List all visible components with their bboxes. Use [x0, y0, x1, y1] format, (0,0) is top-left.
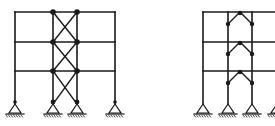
ground-hatch [44, 115, 46, 117]
ground-hatch [204, 115, 206, 117]
connection-node [51, 100, 56, 105]
ground-hatch [253, 115, 255, 117]
ground-hatch [119, 115, 121, 117]
frames-group [6, 9, 275, 117]
ground-hatch [111, 115, 113, 117]
ground-hatch [243, 115, 245, 117]
ground-hatch [19, 115, 21, 117]
ground-hatch [57, 115, 59, 117]
connection-node [250, 52, 254, 56]
ground-hatch [9, 115, 11, 117]
connection-node [75, 100, 80, 105]
ground-hatch [234, 115, 236, 117]
ground-hatch [52, 115, 54, 117]
ground-hatch [47, 115, 49, 117]
ground-hatch [49, 115, 51, 117]
pin-support-icon [71, 104, 83, 113]
ground-hatch [121, 115, 123, 117]
ground-hatch [199, 115, 201, 117]
ground-hatch [114, 115, 116, 117]
ground-hatch [202, 115, 204, 117]
connection-node [50, 68, 56, 74]
ground-hatch [83, 115, 85, 117]
pin-support-icon [197, 104, 209, 113]
ground-hatch [76, 115, 78, 117]
connection-node [226, 52, 230, 56]
ground-hatch [21, 115, 23, 117]
ground-hatch [227, 115, 229, 117]
connection-node [226, 22, 230, 26]
connection-node [50, 39, 56, 45]
ground-hatch [248, 115, 250, 117]
ground-hatch [258, 115, 260, 117]
connection-node [238, 41, 243, 46]
structural-diagram [0, 0, 275, 126]
ground-hatch [224, 115, 226, 117]
connection-node [250, 22, 254, 26]
ground-hatch [116, 115, 118, 117]
connection-node [238, 11, 243, 16]
ground-hatch [59, 115, 61, 117]
ground-hatch [251, 115, 253, 117]
pin-support-icon [109, 104, 121, 113]
ground-hatch [16, 115, 18, 117]
ground-hatch [232, 115, 234, 117]
ground-hatch [194, 115, 196, 117]
ground-hatch [256, 115, 258, 117]
ground-hatch [78, 115, 80, 117]
ground-hatch [197, 115, 199, 117]
ground-hatch [229, 115, 231, 117]
ground-hatch [106, 115, 108, 117]
ground-hatch [207, 115, 209, 117]
ground-hatch [68, 115, 70, 117]
connection-node [13, 100, 17, 104]
ground-hatch [273, 115, 275, 117]
pin-support-icon [271, 104, 275, 113]
ground-hatch [54, 115, 56, 117]
ground-hatch [11, 115, 13, 117]
pin-support-icon [222, 104, 234, 113]
ground-hatch [73, 115, 75, 117]
connection-node [113, 100, 117, 104]
pin-support-icon [9, 104, 21, 113]
connection-node [50, 9, 56, 15]
connection-node [74, 68, 80, 74]
ground-hatch [268, 115, 270, 117]
connection-node [74, 39, 80, 45]
connection-node [238, 70, 243, 75]
ground-hatch [71, 115, 73, 117]
connection-node [74, 9, 80, 15]
connection-node [250, 81, 254, 85]
ground-hatch [222, 115, 224, 117]
ground-hatch [209, 115, 211, 117]
connection-node [226, 81, 230, 85]
pin-support-icon [47, 104, 59, 113]
ground-hatch [81, 115, 83, 117]
ground-hatch [14, 115, 16, 117]
ground-hatch [271, 115, 273, 117]
pin-support-icon [246, 104, 258, 113]
ground-hatch [109, 115, 111, 117]
ground-hatch [6, 115, 8, 117]
ground-hatch [219, 115, 221, 117]
ground-hatch [246, 115, 248, 117]
